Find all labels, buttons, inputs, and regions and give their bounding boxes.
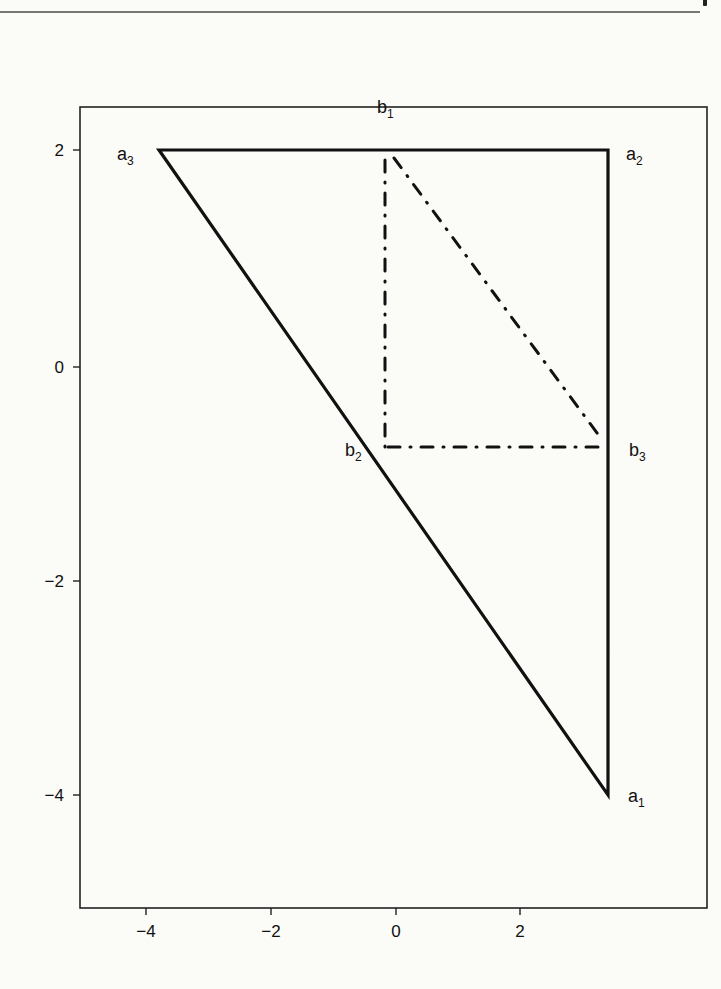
y-tick-label: 2 — [55, 141, 64, 160]
label-b2: b2 — [345, 440, 362, 464]
triangle-b-edge-b1-b3 — [394, 158, 600, 437]
y-tick-label: −2 — [45, 572, 64, 591]
label-b3: b3 — [629, 440, 646, 464]
label-b1: b1 — [377, 97, 394, 121]
triangle-plot: 2 0 −2 −4 −4 −2 0 2 a2 a3 a1 b1 b2 b3 — [0, 0, 721, 989]
label-a2: a2 — [626, 144, 643, 168]
label-a3: a3 — [117, 144, 134, 168]
x-axis — [146, 908, 520, 915]
plot-frame — [80, 107, 707, 908]
x-tick-label: 0 — [391, 922, 400, 941]
x-tick-label: −4 — [136, 922, 155, 941]
y-tick-label: −4 — [45, 786, 64, 805]
y-tick-label: 0 — [55, 358, 64, 377]
x-tick-label: 2 — [515, 922, 524, 941]
label-a1: a1 — [628, 786, 645, 810]
x-tick-label: −2 — [261, 922, 280, 941]
triangle-b — [385, 158, 600, 447]
triangle-a — [159, 150, 608, 795]
y-axis — [73, 150, 80, 795]
